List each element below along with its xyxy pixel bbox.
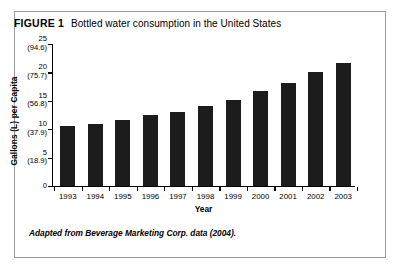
figure-label: FIGURE 1 [14,17,64,29]
x-tick [302,187,303,191]
y-tick-gallons: 15 [39,91,47,100]
bar-series [52,44,355,186]
y-tick-gallons: 5 [43,148,47,157]
y-tick-label: 5(18.9) [27,149,47,166]
x-tick [192,187,193,191]
bar [88,124,103,186]
bar [336,63,351,186]
x-tick [247,187,248,191]
y-tick-gallons: 20 [39,63,47,72]
y-tick-label: 20(75.7) [27,64,47,81]
plot-area: 25(94.6)20(75.7)15(56.8)10(37.9)5(18.9)0… [52,44,358,197]
x-tick [164,187,165,191]
y-tick-label: 10(37.9) [27,121,47,138]
source-note: Adapted from Beverage Marketing Corp. da… [29,228,236,238]
y-tick-gallons: 25 [39,34,47,43]
y-tick-liters: (18.9) [27,158,47,167]
x-tick [54,187,55,191]
bar [198,106,213,186]
y-tick [48,186,52,187]
bar [170,112,185,186]
x-axis-line [52,186,355,187]
x-tick [274,187,275,191]
y-tick-label: 25(94.6) [27,35,47,52]
x-tick [137,187,138,191]
bar [60,126,75,186]
bar [143,115,158,186]
x-tick-label: 2003 [323,192,363,201]
y-tick-label: 15(56.8) [27,92,47,109]
bar [115,120,130,186]
bar [308,72,323,186]
bar [281,83,296,186]
y-axis-title: Gallons (L) per Capita [6,44,22,197]
x-tick [82,187,83,191]
figure-title: Bottled water consumption in the United … [71,18,281,29]
y-tick-liters: (75.7) [27,72,47,81]
y-tick-liters: (94.6) [27,44,47,53]
x-tick [109,187,110,191]
y-tick-gallons: 10 [39,120,47,129]
bar [226,100,241,186]
y-axis-title-text: Gallons (L) per Capita [9,76,19,165]
y-tick-liters: (56.8) [27,101,47,110]
x-tick [357,187,358,191]
bar [253,91,268,186]
figure-header: FIGURE 1Bottled water consumption in the… [14,13,281,31]
y-tick-label: 0 [43,182,47,191]
x-tick [329,187,330,191]
x-tick [219,187,220,191]
y-tick-gallons: 0 [43,181,47,190]
x-axis-title: Year [52,204,355,214]
y-tick-liters: (37.9) [27,129,47,138]
